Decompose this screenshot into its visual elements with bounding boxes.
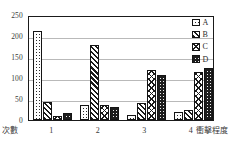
bar-D-2 xyxy=(110,107,119,120)
bar-group-2 xyxy=(76,17,123,120)
legend-label-D: D xyxy=(203,55,209,64)
bar-A-1 xyxy=(33,31,42,120)
legend-item-C: C xyxy=(192,42,208,51)
bar-C-4 xyxy=(194,72,203,120)
legend-label-A: A xyxy=(203,18,209,27)
bar-D-1 xyxy=(63,113,72,120)
bar-chart: 250200150100500 1234 次數 衝擊程度 ABCD xyxy=(0,0,244,154)
bar-A-2 xyxy=(80,105,89,120)
y-axis-tick-0: 0 xyxy=(19,117,23,125)
y-axis-tick-50: 50 xyxy=(15,96,23,104)
bar-groups xyxy=(29,17,213,120)
legend-item-A: A xyxy=(192,18,208,27)
bar-C-3 xyxy=(147,70,156,120)
legend-item-B: B xyxy=(192,30,208,39)
bar-D-3 xyxy=(157,75,166,120)
bar-A-4 xyxy=(174,112,183,120)
y-axis-tick-100: 100 xyxy=(11,75,23,83)
bar-B-4 xyxy=(184,110,193,120)
x-axis-tick-3: 3 xyxy=(121,124,168,138)
legend: ABCD xyxy=(192,18,208,64)
x-axis-tick-2: 2 xyxy=(75,124,122,138)
legend-label-C: C xyxy=(203,42,208,51)
plot-area xyxy=(28,16,214,121)
bar-C-2 xyxy=(100,105,109,120)
x-axis-title: 衝擊程度 xyxy=(196,125,228,137)
bar-D-4 xyxy=(204,68,213,120)
legend-item-D: D xyxy=(192,55,208,64)
legend-label-B: B xyxy=(203,30,208,39)
x-axis-tick-1: 1 xyxy=(28,124,75,138)
y-axis-tick-200: 200 xyxy=(11,33,23,41)
bar-A-3 xyxy=(127,115,136,120)
y-axis-title: 次數 xyxy=(2,125,18,137)
y-axis-tick-150: 150 xyxy=(11,54,23,62)
legend-swatch-B xyxy=(192,31,200,39)
bar-B-1 xyxy=(43,102,52,120)
y-axis-tick-250: 250 xyxy=(11,12,23,20)
legend-swatch-D xyxy=(192,55,200,63)
bar-group-1 xyxy=(29,17,76,120)
bar-group-3 xyxy=(123,17,170,120)
x-axis: 1234 xyxy=(28,124,214,138)
legend-swatch-A xyxy=(192,19,200,27)
bar-B-3 xyxy=(137,103,146,120)
y-axis: 250200150100500 xyxy=(0,16,26,121)
bar-C-1 xyxy=(53,116,62,120)
bar-B-2 xyxy=(90,45,99,120)
legend-swatch-C xyxy=(192,43,200,51)
